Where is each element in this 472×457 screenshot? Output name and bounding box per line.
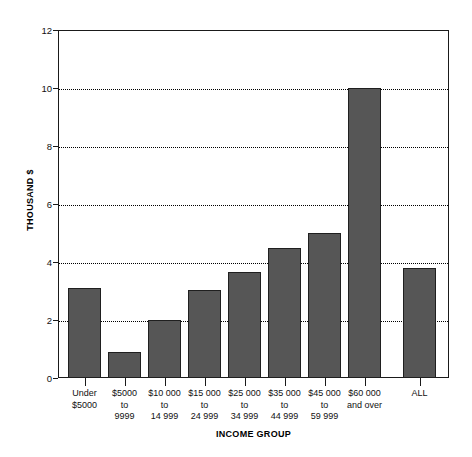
x-tick-mark xyxy=(165,378,166,386)
x-tick-mark xyxy=(325,378,326,386)
bars-layer xyxy=(58,30,449,378)
y-tick-label: 0 xyxy=(12,373,52,384)
x-tick-mark xyxy=(85,378,86,386)
bar xyxy=(403,268,436,378)
x-tick-mark xyxy=(205,378,206,386)
y-tick-label: 2 xyxy=(12,315,52,326)
bar xyxy=(68,288,101,378)
y-tick-label: 8 xyxy=(12,141,52,152)
x-tick-label-line: $60 000 xyxy=(337,388,393,400)
x-tick-label-line: and over xyxy=(337,400,393,412)
x-axis-title: INCOME GROUP xyxy=(58,429,449,439)
x-tick-mark xyxy=(420,378,421,386)
x-tick-mark xyxy=(285,378,286,386)
x-tick-label-line: ALL xyxy=(392,388,448,400)
bar xyxy=(268,248,301,379)
bar xyxy=(228,272,261,378)
x-tick-label-line: 59 999 xyxy=(297,411,353,423)
y-tick-label: 4 xyxy=(12,257,52,268)
bar xyxy=(308,233,341,378)
y-axis: 024681012 xyxy=(0,30,52,378)
bar xyxy=(108,352,141,378)
bar xyxy=(148,320,181,378)
x-tick-mark xyxy=(245,378,246,386)
bar-chart: THOUSAND $ 024681012 Under$5000$5000to99… xyxy=(0,0,472,457)
bar xyxy=(348,88,381,378)
y-tick-label: 6 xyxy=(12,199,52,210)
x-tick-label: $60 000and over xyxy=(337,388,393,411)
y-tick-label: 12 xyxy=(12,25,52,36)
x-axis-ticks xyxy=(58,378,449,388)
bar xyxy=(188,290,221,378)
x-tick-mark xyxy=(125,378,126,386)
x-axis-labels: Under$5000$5000to9999$10 000to14 999$15 … xyxy=(58,388,449,434)
y-tick-label: 10 xyxy=(12,83,52,94)
x-tick-label: ALL xyxy=(392,388,448,400)
x-tick-mark xyxy=(365,378,366,386)
